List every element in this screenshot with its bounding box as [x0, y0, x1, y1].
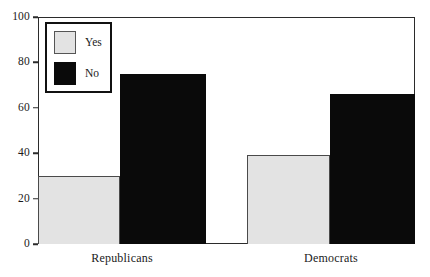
legend-entry-yes: Yes: [54, 31, 102, 54]
bar-republicans-no: [120, 74, 206, 244]
legend-swatch-no-icon: [54, 62, 76, 85]
legend-entry-no: No: [54, 62, 99, 85]
legend-swatch-yes-icon: [54, 31, 76, 54]
bar-republicans-yes: [38, 176, 120, 244]
legend-label-yes: Yes: [85, 37, 102, 49]
x-label-democrats: Democrats: [304, 252, 358, 264]
bar-democrats-yes: [247, 155, 330, 244]
y-tick-label-40: 40: [18, 147, 30, 159]
y-axis: 100 80 60 40 20 0: [0, 0, 38, 277]
legend: Yes No: [45, 22, 112, 93]
bar-chart: 100 80 60 40 20 0 Yes No Republicans Dem…: [0, 0, 430, 277]
y-tick-label-20: 20: [18, 193, 30, 205]
y-tick-label-60: 60: [18, 102, 30, 114]
x-label-republicans: Republicans: [91, 252, 153, 264]
legend-label-no: No: [85, 68, 99, 80]
x-axis: Republicans Democrats: [38, 252, 415, 277]
bar-democrats-no: [330, 94, 415, 244]
y-tick-label-100: 100: [12, 11, 30, 23]
y-tick-label-0: 0: [24, 238, 30, 250]
y-tick-label-80: 80: [18, 57, 30, 69]
